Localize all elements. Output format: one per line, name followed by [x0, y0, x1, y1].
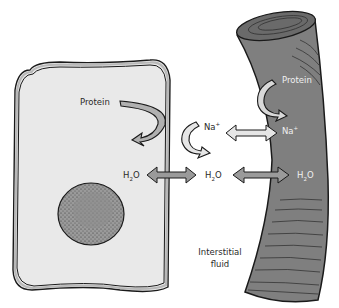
h2o-vessel-label: H2O — [297, 171, 314, 180]
h2o-cell-label: H2O — [123, 171, 140, 180]
na-interstitial-label: Na+ — [204, 123, 220, 132]
h2o-cell-exchange-arrow — [147, 167, 196, 183]
na-vessel-label: Na+ — [282, 127, 298, 136]
na-exchange-arrow — [226, 125, 277, 141]
cell-protein-label: Protein — [80, 98, 110, 107]
h2o-vessel-exchange-arrow — [233, 167, 289, 183]
interstitial-fluid-label: Interstitial fluid — [190, 246, 250, 270]
fluid-exchange-diagram: Protein Protein Na+ Na+ H2O H2O H2O Inte… — [0, 0, 339, 308]
cell — [13, 60, 170, 292]
diagram-canvas — [0, 0, 339, 308]
h2o-interstitial-label: H2O — [205, 171, 222, 180]
vessel-protein-label: Protein — [282, 76, 312, 85]
